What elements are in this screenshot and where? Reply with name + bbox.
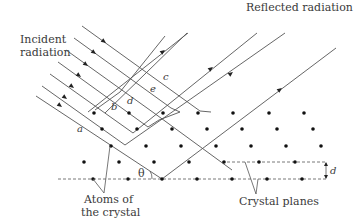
- ray-label-d: d: [127, 95, 133, 106]
- incident-radiation-label-line2: radiation: [20, 46, 71, 59]
- atom: [205, 127, 209, 131]
- ray-path: [162, 48, 336, 179]
- arrow-icon: [62, 94, 69, 100]
- ray-path: [42, 86, 125, 145]
- spacing-marker: [324, 162, 328, 179]
- atoms-pointer: [93, 146, 110, 193]
- reflected-bundle: [88, 33, 188, 112]
- ray-path: [50, 74, 133, 133]
- crystal-planes-pointer: [245, 162, 258, 194]
- atom: [170, 127, 174, 131]
- atom: [300, 177, 304, 181]
- atom: [257, 160, 261, 164]
- atom: [161, 111, 165, 115]
- atom: [144, 144, 148, 148]
- atom: [195, 177, 199, 181]
- atom: [127, 111, 131, 115]
- atom: [214, 144, 218, 148]
- atom: [293, 160, 297, 164]
- atoms-label-line1: Atoms of: [83, 193, 134, 206]
- ray-path: [88, 33, 188, 112]
- atom: [152, 160, 156, 164]
- atom: [265, 177, 269, 181]
- atom: [302, 111, 306, 115]
- arrow-down-icon: [324, 175, 328, 179]
- ray-label-c: c: [163, 71, 169, 82]
- ray-label-b: b: [111, 101, 117, 112]
- atom: [275, 127, 279, 131]
- atom: [92, 111, 96, 115]
- atom: [160, 177, 164, 181]
- ray-path: [58, 62, 148, 127]
- reflected-arrowheads: [160, 48, 284, 93]
- arrow-icon: [91, 49, 98, 55]
- crystal-planes-label: Crystal planes: [239, 195, 319, 208]
- atom: [82, 160, 86, 164]
- atom: [284, 144, 288, 148]
- reflected-radiation-label: Reflected radiation: [246, 1, 353, 14]
- incident-radiation-label-line1: Incident: [20, 33, 67, 46]
- atom: [267, 111, 271, 115]
- bragg-diffraction-diagram: Reflected radiation Incident radiation: [0, 0, 359, 224]
- atoms-label-line2: the crystal: [81, 206, 141, 219]
- atom: [240, 127, 244, 131]
- theta-label: θ: [138, 167, 145, 180]
- atom: [126, 177, 130, 181]
- atom: [187, 160, 191, 164]
- atom: [179, 144, 183, 148]
- ray-label-a: a: [77, 123, 83, 134]
- atom: [100, 127, 104, 131]
- spacing-label-d: d: [330, 165, 336, 176]
- arrow-up-icon: [324, 162, 328, 166]
- atom: [319, 144, 323, 148]
- atom: [230, 177, 234, 181]
- atom: [135, 127, 139, 131]
- arrow-icon: [57, 102, 64, 108]
- atom: [249, 144, 253, 148]
- ray-label-e: e: [150, 83, 156, 94]
- arrow-icon: [69, 83, 76, 89]
- crystal-atoms: [82, 111, 323, 181]
- atom: [311, 127, 315, 131]
- ray-path: [125, 33, 285, 145]
- arrow-icon: [76, 72, 83, 78]
- pointer-line: [93, 146, 110, 193]
- atom: [231, 111, 235, 115]
- atom: [196, 111, 200, 115]
- atom: [117, 160, 121, 164]
- reflected-rays: [95, 33, 336, 179]
- pointer-line: [245, 162, 258, 194]
- atom: [222, 160, 226, 164]
- ray-path: [82, 26, 211, 112]
